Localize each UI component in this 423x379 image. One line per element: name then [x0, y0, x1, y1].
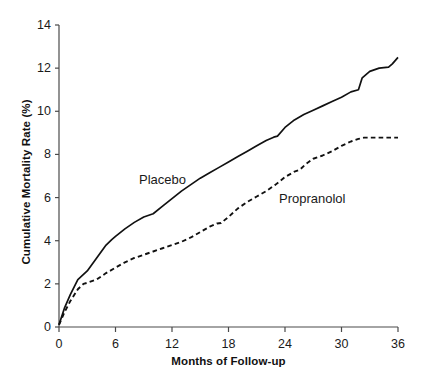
mortality-line-chart: 02468101214 061218243036 Cumulative Mort…	[0, 0, 423, 379]
x-tick-label: 24	[278, 338, 292, 351]
x-tick-label: 36	[391, 338, 405, 351]
x-tick-label: 30	[335, 338, 349, 351]
y-tick-label: 14	[18, 19, 51, 32]
x-axis-title: Months of Follow-up	[59, 355, 398, 367]
y-axis-title: Cumulative Mortality Rate (%)	[20, 82, 32, 282]
y-tick-label: 12	[18, 62, 51, 75]
chart-series-lines	[59, 57, 398, 324]
series-label-placebo: Placebo	[139, 173, 186, 186]
x-tick-label: 0	[56, 338, 63, 351]
series-line-propranolol	[59, 138, 398, 325]
chart-plot-area	[0, 0, 423, 379]
series-line-placebo	[59, 57, 398, 324]
x-tick-label: 12	[165, 338, 179, 351]
x-tick-label: 18	[222, 338, 236, 351]
series-label-propranolol: Propranolol	[279, 192, 346, 205]
y-tick-label: 0	[18, 321, 51, 334]
x-tick-label: 6	[112, 338, 119, 351]
x-tick-marks	[59, 327, 398, 332]
chart-axes	[55, 25, 398, 332]
